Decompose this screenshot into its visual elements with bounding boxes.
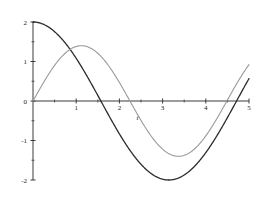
x-tick-label: 2 — [118, 104, 122, 112]
x-tick-label: 4 — [204, 104, 208, 112]
y-tick-label: 1 — [24, 58, 28, 66]
y-tick-label: -1 — [21, 137, 27, 145]
y-tick-label: -2 — [21, 177, 27, 185]
chart-canvas: 12345 -2-1012 t — [0, 0, 261, 197]
y-tick-label: 0 — [24, 98, 28, 106]
x-tick-label: 3 — [161, 104, 165, 112]
x-tick-label: 1 — [74, 104, 78, 112]
y-axis-tick-labels: -2-1012 — [21, 19, 27, 185]
figure-container: 12345 -2-1012 t — [0, 0, 261, 197]
x-tick-label: 5 — [247, 104, 251, 112]
y-tick-label: 2 — [24, 19, 28, 27]
